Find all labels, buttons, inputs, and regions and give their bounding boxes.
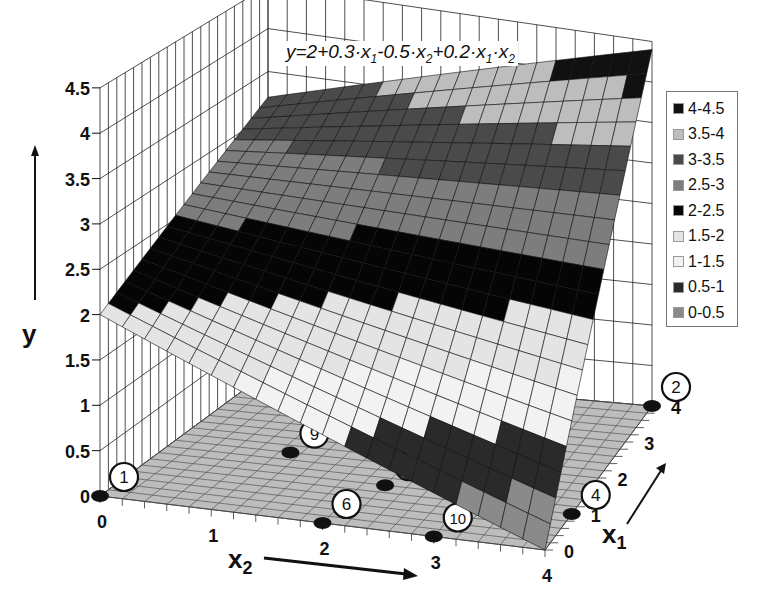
x2-axis-arrow-icon: [264, 558, 406, 574]
y-tick-label: 4: [80, 124, 90, 144]
y-tick-label: 0: [80, 487, 90, 507]
y-tick-label: 2: [80, 306, 90, 326]
legend-swatch-icon: [673, 282, 684, 293]
legend-label: 2-2.5: [688, 202, 724, 220]
design-point-marker: [314, 517, 332, 529]
x2-tick-label: 1: [208, 526, 218, 546]
x2-tick-label: 2: [319, 539, 329, 559]
legend-item: 4-4.5: [673, 96, 737, 122]
legend-swatch-icon: [673, 154, 684, 165]
x1-axis-label: x1: [602, 519, 626, 553]
equation-label: y=2+0.3·x1-0.5·x2+0.2·x1·x2: [283, 41, 518, 66]
y-tick-label: 0.5: [65, 442, 90, 462]
legend-label: 1-1.5: [688, 253, 724, 271]
legend-swatch-icon: [673, 103, 684, 114]
design-point-marker: [281, 447, 299, 459]
legend-swatch-icon: [673, 256, 684, 267]
legend-label: 1.5-2: [688, 227, 724, 245]
design-point-marker: [376, 479, 394, 491]
legend-item: 2-2.5: [673, 198, 737, 224]
y-tick-label: 1: [80, 396, 90, 416]
design-point-marker: [563, 508, 581, 520]
design-point-marker: [425, 531, 443, 543]
x1-tick-label: 2: [617, 470, 627, 490]
legend-item: 1-1.5: [673, 249, 737, 275]
design-point-label: 2: [671, 378, 680, 397]
x1-tick-label: 1: [591, 506, 601, 526]
legend-item: 0-0.5: [673, 300, 737, 326]
x1-axis-arrow-icon: [627, 469, 662, 524]
legend-swatch-icon: [673, 180, 684, 191]
y-tick-label: 3.5: [65, 170, 90, 190]
chart-canvas: 12345678910 00.511.522.533.544.501234012…: [0, 0, 763, 606]
design-point-marker: [643, 400, 661, 412]
x2-tick-label: 0: [97, 512, 107, 532]
x2-tick-label: 4: [542, 566, 552, 586]
legend-label: 0-0.5: [688, 304, 724, 322]
legend-label: 2.5-3: [688, 176, 724, 194]
x2-axis-label: x2: [228, 544, 252, 578]
legend-item: 0.5-1: [673, 275, 737, 301]
y-tick-label: 3: [80, 215, 90, 235]
design-point-label: 1: [119, 468, 128, 487]
legend-label: 0.5-1: [688, 278, 724, 296]
legend-item: 3-3.5: [673, 147, 737, 173]
x1-tick-label: 0: [564, 542, 574, 562]
legend-label: 3.5-4: [688, 125, 724, 143]
y-arrowhead-icon: [31, 145, 39, 156]
y-tick-label: 2.5: [65, 260, 90, 280]
legend-item: 2.5-3: [673, 173, 737, 199]
legend-label: 4-4.5: [688, 100, 724, 118]
design-point-label: 10: [449, 510, 466, 527]
legend-item: 1.5-2: [673, 224, 737, 250]
x2-tick-label: 3: [431, 553, 441, 573]
y-tick-label: 1.5: [65, 351, 90, 371]
legend-item: 3.5-4: [673, 122, 737, 148]
x1-tick-label: 3: [644, 434, 654, 454]
design-point-label: 6: [342, 495, 351, 514]
legend: 4-4.53.5-43-3.52.5-32-2.51.5-21-1.50.5-1…: [666, 91, 738, 327]
legend-swatch-icon: [673, 205, 684, 216]
design-point-label: 4: [591, 486, 600, 505]
y-tick-label: 4.5: [65, 79, 90, 99]
x1-tick-label: 4: [671, 398, 681, 418]
x2-arrowhead-icon: [403, 568, 418, 580]
y-axis-label: y: [22, 319, 37, 349]
legend-label: 3-3.5: [688, 151, 724, 169]
legend-swatch-icon: [673, 129, 684, 140]
legend-swatch-icon: [673, 307, 684, 318]
legend-swatch-icon: [673, 231, 684, 242]
